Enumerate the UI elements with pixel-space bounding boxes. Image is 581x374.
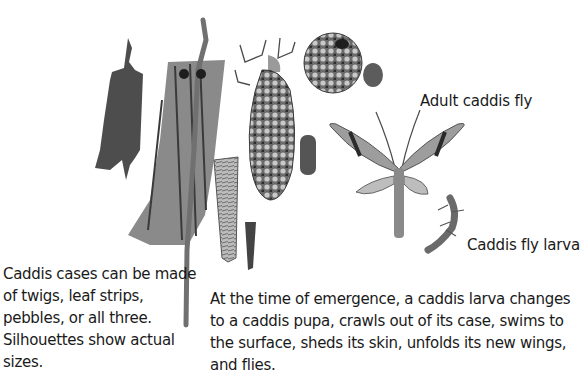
cone-case-icon [214,157,238,262]
leaf-case-silhouette-icon [95,38,143,180]
pebble-case-larva-icon [235,38,295,200]
cone-case-silhouette-icon [245,222,256,270]
pebble-case-icon [304,33,362,93]
caddis-larva-icon [428,198,464,250]
emergence-caption: At the time of emergence, a caddis larva… [210,288,580,374]
adult-caddis-fly-icon [330,110,465,238]
caddis-larva-label: Caddis fly larva [467,236,580,255]
adult-caddis-fly-label: Adult caddis fly [420,92,532,111]
pebble-case-silhouette-icon [300,135,316,175]
pebble-silhouette-icon [363,63,383,87]
cases-caption: Caddis cases can be made of twigs, leaf … [3,263,198,373]
